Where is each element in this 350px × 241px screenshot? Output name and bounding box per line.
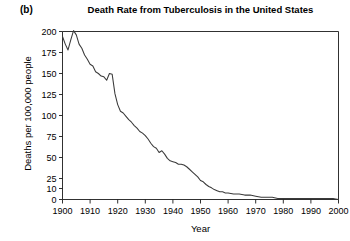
x-tick-label: 1900 <box>52 206 72 216</box>
chart-plot-area: 010255075100125150175200 190019101920193… <box>0 0 350 241</box>
x-tick-label: 1920 <box>108 206 128 216</box>
y-tick-label: 25 <box>46 174 56 184</box>
x-tick-label: 1940 <box>163 206 183 216</box>
x-tick-label: 1950 <box>190 206 210 216</box>
x-axis-ticks: 1900191019201930194019501960197019801990… <box>52 200 348 216</box>
x-tick-label: 1960 <box>218 206 238 216</box>
data-series-line <box>63 31 339 200</box>
axis-frame <box>63 32 339 200</box>
figure-container: (b) Death Rate from Tuberculosis in the … <box>0 0 350 241</box>
y-tick-label: 125 <box>41 90 56 100</box>
y-tick-label: 75 <box>46 132 56 142</box>
x-tick-label: 2000 <box>328 206 348 216</box>
plot-frame <box>63 32 339 200</box>
y-tick-label: 10 <box>46 184 56 194</box>
y-tick-label: 200 <box>41 27 56 37</box>
x-tick-label: 1930 <box>135 206 155 216</box>
x-tick-label: 1970 <box>246 206 266 216</box>
y-axis-ticks: 010255075100125150175200 <box>41 27 62 205</box>
y-tick-label: 50 <box>46 153 56 163</box>
x-tick-label: 1990 <box>301 206 321 216</box>
x-tick-label: 1980 <box>273 206 293 216</box>
y-tick-label: 150 <box>41 69 56 79</box>
y-tick-label: 175 <box>41 48 56 58</box>
y-tick-label: 0 <box>51 195 56 205</box>
x-tick-label: 1910 <box>80 206 100 216</box>
y-tick-label: 100 <box>41 111 56 121</box>
